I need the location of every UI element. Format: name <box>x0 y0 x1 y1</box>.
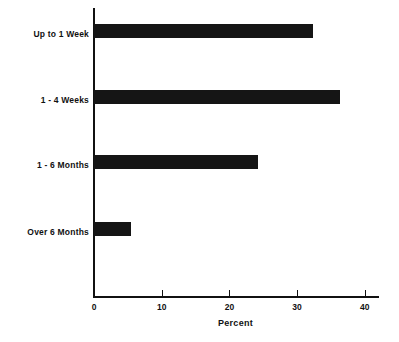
bar-1-4-weeks <box>94 90 340 104</box>
bar-1-6-months <box>94 155 258 169</box>
category-label-1-6-months: 1 - 6 Months <box>0 160 89 170</box>
x-tick-label-40: 40 <box>345 302 385 312</box>
plot-area <box>94 8 378 297</box>
x-tick-label-30: 30 <box>277 302 317 312</box>
x-tick-mark <box>297 290 298 297</box>
x-tick-mark <box>365 290 366 297</box>
x-tick-label-20: 20 <box>209 302 249 312</box>
x-tick-label-10: 10 <box>142 302 182 312</box>
x-axis-title: Percent <box>0 318 399 328</box>
x-tick-mark <box>94 290 95 297</box>
bar-up-to-1-week <box>94 24 313 38</box>
category-label-over-6-months: Over 6 Months <box>0 227 89 237</box>
x-tick-label-0: 0 <box>74 302 114 312</box>
category-label-up-to-1-week: Up to 1 Week <box>0 29 89 39</box>
x-axis-title-text: Percent <box>218 318 253 328</box>
category-label-1-4-weeks: 1 - 4 Weeks <box>0 95 89 105</box>
bar-chart: Up to 1 Week 1 - 4 Weeks 1 - 6 Months Ov… <box>0 0 399 342</box>
x-tick-mark <box>162 290 163 297</box>
x-tick-mark <box>229 290 230 297</box>
bar-over-6-months <box>94 222 131 236</box>
